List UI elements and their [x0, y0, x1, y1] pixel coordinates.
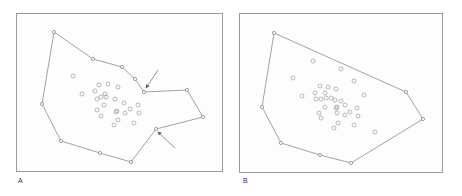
data-point — [318, 84, 322, 88]
data-point — [95, 97, 99, 101]
data-point — [123, 111, 127, 115]
data-point — [116, 118, 120, 122]
data-point — [291, 76, 295, 80]
data-point — [128, 107, 132, 111]
hull-vertex — [279, 141, 282, 144]
hull-vertex — [40, 102, 43, 105]
concavity-arrow — [158, 132, 175, 148]
data-point — [334, 87, 338, 91]
hull-vertex — [272, 31, 275, 34]
panel-a-label: A — [18, 177, 23, 184]
data-point — [106, 82, 110, 86]
data-point — [323, 91, 327, 95]
data-point — [93, 89, 97, 93]
hull-vertex — [154, 127, 157, 130]
data-point — [355, 106, 359, 110]
hull-vertex — [142, 90, 145, 93]
hull-vertex — [404, 90, 407, 93]
hull-outline — [42, 32, 203, 162]
data-point — [343, 113, 347, 117]
hull-outline — [262, 33, 423, 163]
hull-vertex — [185, 88, 188, 91]
data-point — [352, 123, 356, 127]
data-point — [80, 92, 84, 96]
data-point — [332, 126, 336, 130]
diagram-canvas — [0, 0, 462, 196]
data-point — [97, 83, 101, 87]
data-point — [317, 111, 321, 115]
data-point — [300, 94, 304, 98]
data-point — [335, 105, 339, 109]
data-point — [116, 85, 120, 89]
data-point — [343, 103, 347, 107]
data-point — [311, 59, 315, 63]
data-point — [333, 98, 337, 102]
hull-vertex — [120, 65, 123, 68]
data-point — [334, 106, 338, 110]
hull-vertex — [133, 77, 136, 80]
panel-b-label: B — [243, 177, 248, 184]
data-point — [339, 99, 343, 103]
data-point — [335, 111, 339, 115]
data-point — [373, 130, 377, 134]
data-point — [99, 95, 103, 99]
hull-vertex — [129, 160, 132, 163]
data-point — [71, 74, 75, 78]
data-point — [324, 96, 328, 100]
data-point — [132, 121, 136, 125]
data-point — [99, 114, 103, 118]
data-point — [319, 116, 323, 120]
data-point — [323, 105, 327, 109]
data-point — [113, 97, 117, 101]
data-point — [137, 111, 141, 115]
panel-a-plot — [40, 30, 204, 163]
data-point — [95, 108, 99, 112]
data-point — [115, 109, 119, 113]
hull-vertex — [91, 57, 94, 60]
hull-vertex — [98, 151, 101, 154]
data-point — [114, 110, 118, 114]
hull-vertex — [318, 153, 321, 156]
data-point — [339, 67, 343, 71]
hull-vertex — [421, 117, 424, 120]
data-point — [336, 121, 340, 125]
data-point — [348, 110, 352, 114]
data-point — [314, 97, 318, 101]
hull-vertex — [201, 115, 204, 118]
hull-vertex — [59, 139, 62, 142]
data-point — [313, 91, 317, 95]
data-point — [136, 103, 140, 107]
hull-vertex — [349, 161, 352, 164]
concavity-arrow — [146, 70, 158, 88]
data-point — [352, 79, 356, 83]
panel-b-plot — [260, 31, 424, 164]
data-point — [102, 103, 106, 107]
data-point — [319, 97, 323, 101]
data-point — [356, 114, 360, 118]
hull-vertex — [52, 30, 55, 33]
hull-vertex — [260, 105, 263, 108]
data-point — [122, 101, 126, 105]
data-point — [326, 85, 330, 89]
data-point — [112, 123, 116, 127]
data-point — [329, 96, 333, 100]
data-point — [362, 93, 366, 97]
